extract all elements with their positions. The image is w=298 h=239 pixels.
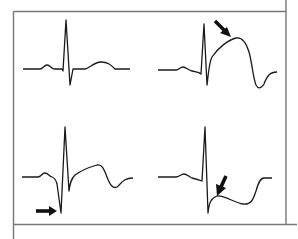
ecg-figure <box>0 0 297 239</box>
arrow-right-icon <box>36 206 57 216</box>
ecg-trace-st-depression <box>158 127 272 213</box>
ecg-trace-pathologic-q <box>22 127 133 213</box>
panel-st-depression <box>158 127 272 213</box>
arrow-down-right-icon <box>215 21 231 37</box>
panel-st-elevation <box>158 21 277 88</box>
arrow-down-left-icon <box>216 176 226 196</box>
figure-frame <box>14 0 298 239</box>
panel-normal-ecg <box>23 20 130 85</box>
ecg-trace-st-elevation <box>158 24 277 88</box>
panel-pathologic-q-wave <box>22 127 133 216</box>
ecg-trace-normal <box>23 20 130 85</box>
